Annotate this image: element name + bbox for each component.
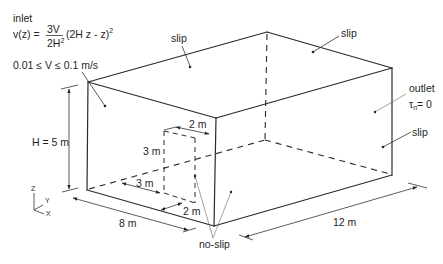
outlet-condition-value: = 0: [417, 98, 432, 110]
slip-right-leader: [383, 132, 411, 147]
channel-flow-diagram: Z Y X inlet v(z) = 3V 2H2 (2H z - z)2 0.…: [0, 0, 443, 264]
x-axis-label: X: [46, 210, 51, 217]
slip-right-dot: [382, 146, 385, 149]
obstacle-bottom-edge: [164, 193, 195, 203]
height-tick-bottom: [62, 188, 78, 192]
top-right-edge: [216, 68, 392, 118]
length-tick-end: [408, 183, 427, 188]
obstacle-offset-label: 3 m: [136, 177, 154, 189]
outlet-label: outlet: [409, 82, 435, 94]
length-dimension-line: [245, 187, 417, 237]
slip-top-right-dot: [312, 51, 315, 54]
velocity-range: 0.01 ≤ V ≤ 0.1 m/s: [13, 59, 98, 71]
length-tick-start: [239, 235, 253, 240]
inlet-annotation: inlet v(z) = 3V 2H2 (2H z - z)2 0.01 ≤ V…: [13, 12, 113, 71]
boundary-labels: slip slip outlet τn= 0 slip no-slip: [171, 27, 435, 250]
no-slip-label: no-slip: [199, 238, 230, 250]
inlet-dot: [104, 105, 107, 108]
slip-top-left-dot: [189, 66, 192, 69]
outlet-dot: [374, 111, 376, 113]
formula-rhs-base: (2H z - z): [66, 28, 109, 40]
bottom-left-edge: [89, 140, 265, 189]
coordinate-axes: Z Y X: [31, 185, 51, 217]
front-left-vertical-edge: [87, 82, 88, 190]
height-tick-top: [61, 85, 78, 89]
formula-denominator: 2H2: [47, 37, 64, 49]
y-axis-line: [34, 205, 43, 210]
outlet-leader: [375, 94, 406, 112]
height-label: H = 5 m: [32, 136, 69, 148]
dimension-labels: H = 5 m 8 m 12 m 3 m 3 m 2 m 2 m: [32, 118, 357, 229]
diagram-svg: Z Y X inlet v(z) = 3V 2H2 (2H z - z)2 0.…: [0, 0, 443, 264]
formula-denominator-exponent: 2: [60, 37, 64, 44]
bottom-right-edge: [214, 175, 392, 226]
obstacle-bottom-width-label: 2 m: [183, 205, 201, 217]
formula-rhs: (2H z - z)2: [66, 27, 113, 40]
bottom-back-edge: [265, 140, 390, 174]
dimension-lines: [61, 85, 427, 240]
formula-denominator-base: 2H: [47, 37, 60, 49]
obstacle-bottom-width-dimension-line: [161, 203, 182, 210]
z-axis-label: Z: [31, 185, 36, 192]
inlet-label: inlet: [13, 12, 32, 24]
no-slip-obstacle-dot: [194, 175, 196, 177]
no-slip-floor-dot: [230, 191, 232, 193]
formula-numerator: 3V: [47, 23, 60, 35]
formula-rhs-exponent: 2: [109, 27, 113, 34]
formula-lhs: v(z) =: [13, 28, 40, 40]
obstacle-top-width-label: 2 m: [189, 118, 207, 130]
inlet-leader: [82, 72, 105, 106]
slip-top-right-label: slip: [341, 27, 357, 39]
domain-box: [87, 32, 392, 226]
no-slip-leader-floor: [213, 192, 231, 238]
top-back-edge: [267, 32, 392, 68]
width-label: 8 m: [119, 217, 137, 229]
obstacle-top-edge: [164, 131, 195, 138]
slip-right-label: slip: [412, 126, 428, 138]
x-axis-line: [34, 210, 44, 214]
leaders: [82, 36, 411, 238]
back-left-vertical-edge: [265, 34, 267, 140]
width-tick-end: [183, 228, 196, 232]
obstacle-top-extension-line: [164, 127, 176, 130]
length-label: 12 m: [333, 216, 357, 228]
outlet-condition: τn= 0: [409, 98, 432, 111]
obstacle-height-label: 3 m: [143, 145, 161, 157]
y-axis-label: Y: [45, 197, 50, 204]
front-right-vertical-edge: [214, 118, 216, 226]
top-front-edge: [88, 82, 216, 118]
slip-top-left-label: slip: [171, 32, 187, 44]
